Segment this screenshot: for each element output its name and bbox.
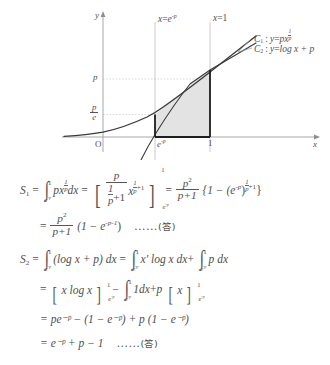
s2l2-eval1-lower: e-p [108,294,114,302]
label-x-equals-1: x=1 [213,13,227,23]
c2-index: 2 [260,48,263,54]
integral-s2l2: ∫ 1 e-p [124,282,130,297]
s2l2-eval2-lower: e-p [198,294,204,302]
s2l2-eval2-upper: 1 [197,281,200,288]
s2l2-bracket-x: [ x ] 1 e-p [165,284,194,298]
s1-antiderivative: p 1 p +1 x 1 p +1 [105,170,144,206]
s1l2-dots: …… [134,220,158,232]
s1-eval-upper: 1 [161,166,164,173]
curve-label-c2: C2:y=log x + p [254,44,314,54]
s1l2-tail-open: (1 − e [77,220,105,232]
s1l2-tail-close: ) [117,220,121,232]
c1-sep: : [265,34,268,44]
s1-den-one: 1 [120,190,126,202]
s1-result-fraction: p2 p+1 [176,177,199,202]
s2t2-lower-limit: e-p [200,264,207,272]
s1l2-equals: = [40,220,47,232]
bracket-left-3: [ [168,290,172,298]
s1-result-den: p+1 [176,189,199,202]
y-tick-label-p: p [93,72,98,82]
s1-equals-1: = [32,184,39,196]
s1l2-num-sq: 2 [63,211,66,219]
vline1-exp: -p [172,13,177,19]
c2-expr: log x + p [280,44,315,54]
c2-expr-text: log x + p [280,44,315,54]
x-tick-e-exponent: -p [161,138,166,144]
c2-sep: : [265,44,268,54]
shaded-area [155,70,210,137]
equation-s2-line1: S2 = ∫ 1 e-p (log x + p) dx = ∫ 1 e-p x′… [20,252,228,267]
s2-upper-limit: 1 [48,248,51,255]
x-tick-label-e-to-minus-p: e-p [157,138,166,149]
s1l2-num: p2 [50,212,73,225]
s1-eval-lower: e-p [163,202,169,210]
equation-s2-line4: = e⁻ᵖ + p − 1 ……(答) [40,336,158,350]
graph-figure: y x O p p e e-p 1 x=e-p x=1 C1:y=px 1 p … [0,0,330,160]
bracket-left: [ [95,190,101,201]
equation-s2-line3: = pe⁻ᵖ − (1 − e⁻ᵖ) + p (1 − e⁻ᵖ) [40,312,189,326]
s2l4-answer-tag: (答) [140,338,157,349]
s2-plus: + [187,253,194,265]
y-axis-arrow [101,11,106,17]
s2l2-eval2-lower-exp: -p [201,294,204,299]
s1-integrand: px [53,184,64,196]
s1-brace-close: } [256,184,262,196]
equation-s1-line1: S1 = ∫ 1 e-p px 1 pdx = [ p 1 p +1 x [20,170,262,206]
s1-equals-3: = [165,184,172,196]
s1-coefficient-fraction: p 1 p +1 [106,170,127,206]
s1-bracket-group: [ p 1 p +1 x 1 p +1 ] 1 e-p [91,170,159,206]
s1-brace-expr: {1 − (e-p) 1 p +1} [203,184,262,196]
s1-x-exponent: 1 p +1 [133,184,144,192]
x-axis-label: x [313,139,317,149]
bracket-right-3: ] [187,290,191,298]
s1l2-tail-exp: -p-1 [105,219,117,227]
solution-math-block: S1 = ∫ 1 e-p px 1 pdx = [ p 1 p +1 x [0,160,330,365]
integral-lower-limit: e-p [45,195,52,203]
s1l2-answer-tag: (答) [158,221,175,232]
vline2-base: 1 [223,13,228,23]
label-x-equals-e-to-minus-p: x=e-p [158,13,177,24]
origin-label: O [95,139,102,149]
s1-subscript: 1 [26,190,30,198]
s1-frac-num: p [106,170,127,182]
s2l2-one-dx: 1dx [133,283,150,295]
integral-s2-term2: ∫ 1 e-p [199,252,205,267]
s1-frac-den: 1 p +1 [106,182,127,206]
c1-exp-num: 1 [288,29,291,35]
curve-label-c1: C1:y=px 1 p [254,29,291,44]
s2l2-lower-exp: -p [128,294,132,299]
s2-term1: x′ log x dx [141,253,188,265]
s1-result-num: p2 [176,177,199,190]
s2-lower-limit: e-p [45,264,52,272]
s2-term2: p dx [209,253,228,265]
s1-dx: dx [68,184,79,196]
c1-exponent: 1 p [288,33,291,39]
s1-brace-open: {1 − (e [203,184,236,196]
y-tick-p-over-e-denominator: e [90,112,98,122]
s2l2-eval1-lower-exp: -p [111,294,114,299]
s2l2-x: x [177,284,182,296]
integral-upper-limit: 1 [48,179,51,186]
s2l4-expression: = e⁻ᵖ + p − 1 [40,337,104,349]
s2t1-lower-limit: e-p [132,264,139,272]
s2t2-lower-exp: -p [203,264,207,269]
x-tick-label-1: 1 [208,138,213,148]
s2-equals-2: = [119,253,126,265]
s2t1-lower-exp: -p [135,264,139,269]
s2l2-xlogx: x log x [62,284,93,296]
bracket-right-2: ] [97,290,101,298]
equation-s2-line2: = [ x log x ] 1 e-p − ∫ 1 e-p 1dx+p [ x … [40,282,194,298]
s1-result-num-sq: 2 [188,176,191,184]
s1l2-den: p+1 [50,225,73,238]
s1-equals-2: = [81,184,88,196]
s2l4-dots: …… [116,337,140,349]
bracket-right: ] [149,190,155,201]
s2l2-bracket-xlogx: [ x log x ] 1 e-p [49,284,104,298]
bracket-left-2: [ [53,290,57,298]
s1l2-fraction: p2 p+1 [50,212,73,237]
s2-subscript: 2 [26,259,30,267]
y-tick-label-p-over-e: p e [89,103,99,122]
s2l2-equals: = [40,283,47,295]
s2-integrand: (log x + p) dx [53,253,116,265]
integral-lower-exp: -p [48,195,52,200]
